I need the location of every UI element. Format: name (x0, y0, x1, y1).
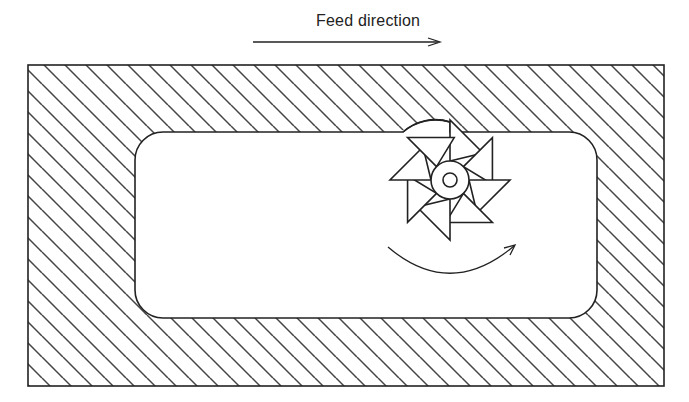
cutter-bore (443, 173, 457, 187)
feed-direction-arrow (253, 38, 440, 46)
pocket-milling-diagram (0, 0, 689, 402)
pocket (135, 120, 597, 318)
